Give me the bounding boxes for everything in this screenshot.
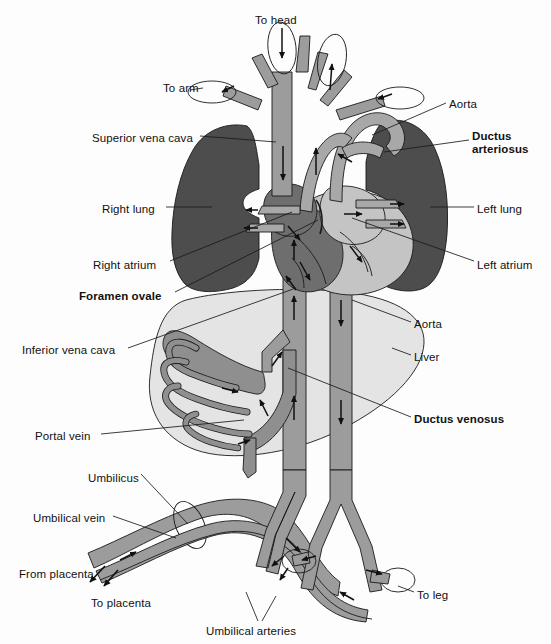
label-from-placenta: From placenta	[19, 568, 94, 581]
label-umbilical-arteries: Umbilical arteries	[206, 625, 296, 638]
label-right-atrium: Right atrium	[93, 259, 156, 272]
portal-vein-stub	[243, 438, 256, 478]
label-umbilical-vein: Umbilical vein	[33, 512, 105, 525]
label-right-lung: Right lung	[102, 203, 155, 216]
pulmonary-artery-right	[258, 206, 300, 214]
head-arm-vessels	[223, 36, 385, 120]
leader-umbilical-arteries	[246, 592, 276, 621]
ductus-arteriosus-vessel	[342, 142, 384, 158]
label-aorta-top: Aorta	[449, 98, 477, 111]
label-foramen-ovale: Foramen ovale	[79, 290, 161, 303]
right-lung-shape	[172, 125, 259, 292]
leader-umbilicus	[141, 474, 188, 524]
label-to-head: To head	[255, 14, 297, 27]
label-liver: Liver	[414, 351, 439, 364]
label-left-atrium: Left atrium	[477, 259, 532, 272]
label-left-lung: Left lung	[477, 203, 522, 216]
label-ductus-arteriosus: Ductus arteriosus	[472, 130, 529, 156]
label-aorta-lower: Aorta	[414, 318, 442, 331]
label-umbilicus: Umbilicus	[88, 472, 139, 485]
label-to-placenta: To placenta	[91, 597, 151, 610]
label-inferior-vena-cava: Inferior vena cava	[22, 344, 115, 357]
label-superior-vena-cava: Superior vena cava	[92, 132, 193, 145]
label-ductus-venosus: Ductus venosus	[414, 413, 504, 426]
label-to-arm: To arm	[163, 82, 199, 95]
svc-vessel	[272, 72, 292, 196]
fetal-circulation-figure: To head To arm Aorta Superior vena cava …	[0, 0, 551, 644]
diagram-canvas	[0, 0, 551, 644]
iliac-arteries	[301, 470, 382, 592]
label-portal-vein: Portal vein	[35, 430, 90, 443]
label-to-leg: To leg	[417, 589, 448, 602]
